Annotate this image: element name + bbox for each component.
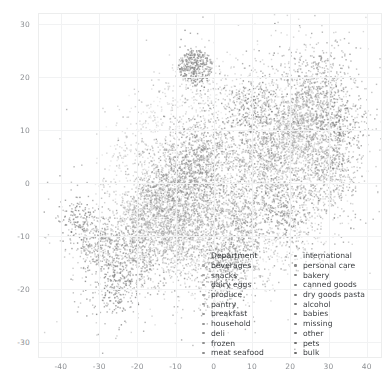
x-tick-label: -30 (93, 362, 106, 371)
gridline-vertical (176, 13, 177, 358)
legend-item: other (291, 329, 379, 339)
legend-marker-icon (291, 323, 300, 325)
legend-item-label: dairy eggs (208, 280, 251, 289)
legend-item: snacks (199, 270, 291, 280)
legend-marker-icon (199, 264, 208, 266)
legend-item: frozen (199, 338, 291, 348)
legend-marker-icon (199, 274, 208, 276)
y-tick-label: 20 (6, 72, 30, 81)
legend-title-row: Department (199, 251, 291, 261)
y-tick-label: -10 (6, 231, 30, 240)
legend-marker-icon (199, 342, 208, 344)
legend-marker-icon (291, 303, 300, 305)
gridline-horizontal (38, 183, 382, 184)
gridline-vertical (137, 13, 138, 358)
legend-item-label: personal care (300, 261, 355, 270)
x-tick-label: -40 (54, 362, 67, 371)
y-tick-label: 0 (6, 178, 30, 187)
legend-item-label: bakery (300, 271, 329, 280)
legend-item: missing (291, 319, 379, 329)
legend-item: deli (199, 329, 291, 339)
legend-item-label: produce (208, 290, 242, 299)
legend-item-label: pantry (208, 300, 236, 309)
legend-title-label: Department (208, 251, 257, 260)
legend-marker-icon (199, 323, 208, 325)
legend-item-label: household (208, 319, 251, 328)
legend-title-spacer (199, 255, 208, 257)
legend-item-label: pets (300, 339, 320, 348)
legend-item: produce (199, 290, 291, 300)
legend-column-left: Departmentbeveragessnacksdairy eggsprodu… (199, 251, 291, 358)
legend-item-label: deli (208, 329, 225, 338)
legend-marker-icon (291, 294, 300, 296)
x-tick-label: 10 (247, 362, 257, 371)
legend-marker-icon (291, 342, 300, 344)
legend-item-label: bulk (300, 348, 319, 357)
x-tick-label: 20 (285, 362, 295, 371)
legend-item-label: other (300, 329, 323, 338)
x-tick-label: -10 (169, 362, 182, 371)
legend-item: meat seafood (199, 348, 291, 358)
legend-item-label: snacks (208, 271, 237, 280)
legend-item: dry goods pasta (291, 290, 379, 300)
legend: Departmentbeveragessnacksdairy eggsprodu… (199, 251, 379, 358)
legend-item: dairy eggs (199, 280, 291, 290)
legend-item-label: meat seafood (208, 348, 264, 357)
y-tick-label: -20 (6, 285, 30, 294)
legend-item: pets (291, 338, 379, 348)
legend-item-label: frozen (208, 339, 235, 348)
legend-item-label: beverages (208, 261, 251, 270)
x-tick-label: 30 (324, 362, 334, 371)
legend-item: personal care (291, 261, 379, 271)
legend-marker-icon (199, 332, 208, 334)
legend-item: breakfast (199, 309, 291, 319)
legend-item: canned goods (291, 280, 379, 290)
legend-marker-icon (291, 284, 300, 286)
legend-marker-icon (291, 274, 300, 276)
legend-item-label: breakfast (208, 309, 247, 318)
legend-marker-icon (291, 332, 300, 334)
legend-marker-icon (291, 352, 300, 354)
legend-marker-icon (291, 264, 300, 266)
gridline-horizontal (38, 77, 382, 78)
legend-marker-icon (291, 313, 300, 315)
legend-item: bulk (291, 348, 379, 358)
x-tick-label: 0 (211, 362, 216, 371)
gridline-vertical (61, 13, 62, 358)
legend-item-label: missing (300, 319, 333, 328)
legend-item-label: dry goods pasta (300, 290, 365, 299)
legend-marker-icon (199, 284, 208, 286)
legend-item-label: canned goods (300, 280, 357, 289)
legend-item: alcohol (291, 299, 379, 309)
legend-item: babies (291, 309, 379, 319)
scatter-plot-figure: -40-30-20-10010203040 3020100-10-20-30 D… (0, 0, 390, 386)
gridline-horizontal (38, 236, 382, 237)
legend-item-label: international (300, 251, 352, 260)
legend-item: beverages (199, 261, 291, 271)
x-tick-label: 40 (362, 362, 372, 371)
legend-item: bakery (291, 270, 379, 280)
legend-marker-icon (199, 352, 208, 354)
y-tick-label: 30 (6, 19, 30, 28)
gridline-horizontal (38, 130, 382, 131)
y-tick-label: 10 (6, 125, 30, 134)
gridline-horizontal (38, 24, 382, 25)
x-tick-label: -20 (131, 362, 144, 371)
legend-column-right: internationalpersonal carebakerycanned g… (291, 251, 379, 358)
legend-marker-icon (291, 255, 300, 257)
legend-item: pantry (199, 299, 291, 309)
y-tick-label: -30 (6, 338, 30, 347)
legend-marker-icon (199, 294, 208, 296)
legend-marker-icon (199, 313, 208, 315)
legend-item: international (291, 251, 379, 261)
legend-item-label: alcohol (300, 300, 331, 309)
legend-item-label: babies (300, 309, 328, 318)
legend-item: household (199, 319, 291, 329)
legend-marker-icon (199, 303, 208, 305)
gridline-vertical (99, 13, 100, 358)
